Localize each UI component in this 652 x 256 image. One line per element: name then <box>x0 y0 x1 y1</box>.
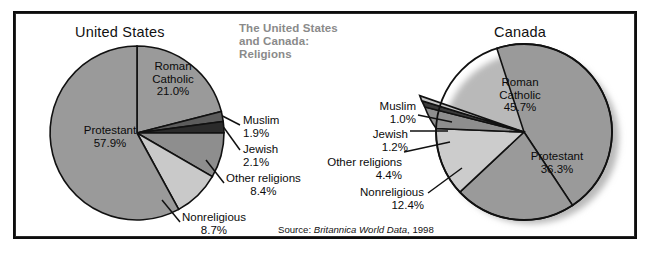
us-label-protestant: Protestant 57.9% <box>62 124 158 149</box>
ca-label-roman-catholic-value: 45.7% <box>479 101 561 114</box>
us-label-nonreligious-name: Nonreligious <box>182 211 246 224</box>
us-chart-title: United States <box>75 24 165 40</box>
chart-figure: United States Canada The United States a… <box>0 0 652 256</box>
ca-label-nonreligious-name: Nonreligious <box>330 186 424 199</box>
us-label-protestant-name: Protestant <box>62 124 158 137</box>
us-label-muslim-name: Muslim <box>243 114 279 127</box>
us-label-roman-catholic-name-2: Catholic <box>139 73 207 86</box>
us-label-nonreligious: Nonreligious 8.7% <box>182 211 246 236</box>
figure-title-line-2: and Canada: <box>239 35 359 48</box>
ca-label-jewish: Jewish 1.2% <box>334 128 408 153</box>
us-label-roman-catholic: Roman Catholic 21.0% <box>139 60 207 98</box>
ca-label-roman-catholic: Roman Catholic 45.7% <box>479 76 561 114</box>
ca-label-muslim-name: Muslim <box>340 100 416 113</box>
us-label-jewish: Jewish 2.1% <box>243 143 278 168</box>
ca-label-other-religions-value: 4.4% <box>318 169 402 182</box>
us-leader-muslim <box>223 116 241 125</box>
us-label-muslim: Muslim 1.9% <box>243 114 279 139</box>
source-suffix: , 1998 <box>407 224 434 235</box>
us-label-protestant-value: 57.9% <box>62 137 158 150</box>
ca-label-roman-catholic-name-2: Catholic <box>479 89 561 102</box>
source-prefix: Source: <box>278 224 314 235</box>
figure-title-line-1: The United States <box>239 22 359 35</box>
ca-chart-title: Canada <box>494 24 546 40</box>
ca-label-muslim: Muslim 1.0% <box>340 100 416 125</box>
us-label-other-religions-value: 8.4% <box>226 185 301 198</box>
us-label-nonreligious-value: 8.7% <box>182 224 246 237</box>
ca-label-other-religions-name: Other religions <box>318 156 402 169</box>
ca-label-nonreligious: Nonreligious 12.4% <box>330 186 424 211</box>
us-label-jewish-name: Jewish <box>243 143 278 156</box>
ca-label-jewish-name: Jewish <box>334 128 408 141</box>
ca-label-other-religions: Other religions 4.4% <box>318 156 402 181</box>
us-label-other-religions-name: Other religions <box>226 172 301 185</box>
us-label-roman-catholic-name-1: Roman <box>139 60 207 73</box>
ca-label-muslim-value: 1.0% <box>340 113 416 126</box>
us-label-muslim-value: 1.9% <box>243 127 279 140</box>
ca-label-protestant: Protestant 36.3% <box>515 150 599 175</box>
source-credit: Source: Britannica World Data, 1998 <box>278 224 434 235</box>
ca-label-jewish-value: 1.2% <box>334 141 408 154</box>
us-label-roman-catholic-value: 21.0% <box>139 85 207 98</box>
ca-label-nonreligious-value: 12.4% <box>330 199 424 212</box>
us-label-jewish-value: 2.1% <box>243 156 278 169</box>
ca-label-roman-catholic-name-1: Roman <box>479 76 561 89</box>
figure-title: The United States and Canada: Religions <box>239 22 359 62</box>
figure-title-line-3: Religions <box>239 48 359 61</box>
ca-label-protestant-name: Protestant <box>515 150 599 163</box>
source-work-title: Britannica World Data <box>314 224 407 235</box>
canada-pie <box>420 21 634 240</box>
us-leader-jewish <box>224 128 240 151</box>
ca-label-protestant-value: 36.3% <box>515 163 599 176</box>
us-label-other-religions: Other religions 8.4% <box>226 172 301 197</box>
